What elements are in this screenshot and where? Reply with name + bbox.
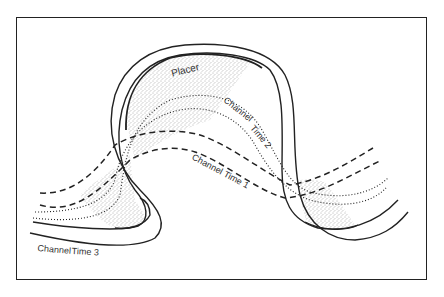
label-channel-time-3-word2: Time 3 [71, 246, 99, 257]
placer-left-bar [80, 155, 148, 229]
placer-right-bar [300, 179, 355, 230]
